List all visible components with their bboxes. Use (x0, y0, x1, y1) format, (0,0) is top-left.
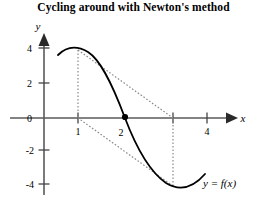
x-axis-label: x (240, 112, 246, 124)
figure-container: Cycling around with Newton's method (0, 0, 267, 209)
y-tick-label-0: 0 (27, 113, 32, 124)
x-tick-label-2: 2 (119, 127, 124, 138)
root-point-group (122, 114, 128, 120)
curve-legend-label: y = f(x) (202, 177, 236, 190)
tangent-line-at-x1 (78, 50, 173, 118)
y-axis-label: y (35, 20, 41, 32)
tick-labels-group: 1 2 4 4 2 0 -2 -4 (26, 43, 210, 190)
x-axis-arrow-icon (226, 113, 238, 124)
x-tick-label-1: 1 (76, 126, 81, 137)
newton-method-plot: 1 2 4 4 2 0 -2 -4 y x y = f(x) (0, 0, 267, 209)
y-tick-label-4: 4 (27, 43, 32, 54)
y-axis-arrow-icon (39, 33, 50, 46)
root-point-marker (122, 114, 128, 120)
x-tick-label-4: 4 (205, 126, 210, 137)
legend-group: y = f(x) (202, 177, 236, 190)
y-tick-label-2: 2 (27, 78, 32, 89)
y-tick-label-neg2: -2 (26, 145, 34, 156)
axis-names-group: y x (35, 20, 246, 124)
y-tick-label-neg4: -4 (26, 179, 34, 190)
